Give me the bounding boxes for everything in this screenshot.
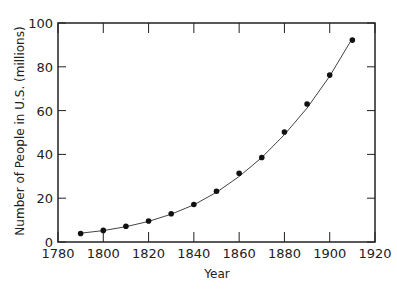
data-point bbox=[214, 188, 220, 194]
y-tick-label: 20 bbox=[36, 191, 53, 206]
y-axis-ticks: 020406080100 bbox=[28, 16, 375, 250]
y-tick-label: 0 bbox=[45, 235, 53, 250]
fitted-curve bbox=[81, 38, 353, 233]
x-tick-label: 1820 bbox=[132, 246, 165, 261]
x-axis-label: Year bbox=[203, 267, 229, 281]
data-point bbox=[282, 129, 288, 135]
x-axis-ticks: 17801800182018401860188019001920 bbox=[41, 23, 391, 261]
data-point bbox=[304, 101, 310, 107]
y-axis-label: Number of People in U.S. (millions) bbox=[13, 26, 27, 235]
data-point bbox=[259, 155, 265, 161]
data-point bbox=[191, 202, 197, 208]
y-tick-label: 60 bbox=[36, 104, 53, 119]
fitted-curve-path bbox=[81, 38, 353, 233]
data-point bbox=[236, 170, 242, 176]
x-tick-label: 1840 bbox=[177, 246, 210, 261]
data-point bbox=[100, 228, 106, 234]
y-tick-label: 80 bbox=[36, 60, 53, 75]
population-chart: 17801800182018401860188019001920 0204060… bbox=[0, 0, 397, 291]
plot-area bbox=[58, 23, 375, 242]
x-tick-label: 1860 bbox=[223, 246, 256, 261]
x-tick-label: 1800 bbox=[87, 246, 120, 261]
data-point bbox=[327, 72, 333, 78]
data-point bbox=[350, 37, 356, 43]
x-tick-label: 1880 bbox=[268, 246, 301, 261]
y-tick-label: 100 bbox=[28, 16, 53, 31]
y-tick-label: 40 bbox=[36, 147, 53, 162]
data-point bbox=[168, 211, 174, 217]
data-point bbox=[123, 223, 129, 229]
data-points bbox=[78, 37, 355, 236]
data-point bbox=[78, 231, 84, 237]
x-tick-label: 1920 bbox=[358, 246, 391, 261]
plot-frame bbox=[58, 23, 375, 242]
x-tick-label: 1900 bbox=[313, 246, 346, 261]
data-point bbox=[146, 218, 152, 224]
